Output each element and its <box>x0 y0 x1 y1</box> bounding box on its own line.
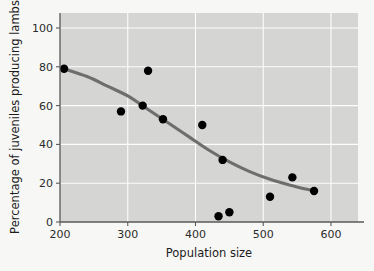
data-point <box>159 115 167 123</box>
data-point <box>218 156 226 164</box>
x-tick-label-400: 400 <box>185 228 206 241</box>
data-point <box>310 187 318 195</box>
y-tick-label-40: 40 <box>39 138 53 151</box>
x-axis-title: Population size <box>166 246 252 260</box>
data-point <box>214 212 222 220</box>
y-tick-label-0: 0 <box>46 216 53 229</box>
y-axis-title: Percentage of juveniles producing lambs <box>8 0 22 234</box>
data-point <box>225 208 233 216</box>
data-point <box>288 173 296 181</box>
y-tick-label-100: 100 <box>32 22 53 35</box>
data-point <box>198 121 206 129</box>
data-point <box>144 66 152 74</box>
y-tick-label-60: 60 <box>39 100 53 113</box>
data-point <box>60 65 68 73</box>
x-tick-label-600: 600 <box>321 228 342 241</box>
chart-figure: 200300400500600 020406080100 Population … <box>0 0 374 271</box>
x-tick-label-500: 500 <box>253 228 274 241</box>
data-point <box>117 107 125 115</box>
x-tick-label-300: 300 <box>117 228 138 241</box>
scatter-plot: 200300400500600 020406080100 Population … <box>0 0 374 271</box>
y-tick-label-20: 20 <box>39 177 53 190</box>
data-point <box>266 193 274 201</box>
x-tick-label-200: 200 <box>50 228 71 241</box>
data-point <box>138 101 146 109</box>
y-tick-label-80: 80 <box>39 61 53 74</box>
